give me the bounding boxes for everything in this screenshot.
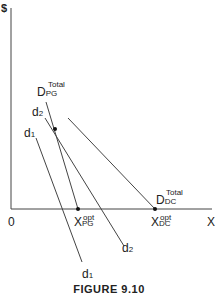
figure-caption: FIGURE 9.10 xyxy=(0,283,218,295)
d-dc-total-sup: Total xyxy=(166,188,183,197)
x-pg-opt-sup: opt xyxy=(83,213,94,222)
x-axis-label: X xyxy=(207,216,215,228)
d-dc-total-line xyxy=(68,118,155,209)
x-dc-opt-sup: opt xyxy=(160,213,171,222)
d1-label-top: d1 xyxy=(24,127,35,139)
y-axis-label: $ xyxy=(1,3,7,14)
d2-label-top: d2 xyxy=(32,106,43,118)
intersection-point xyxy=(53,127,57,131)
d-pg-total-sup: Total xyxy=(48,80,65,89)
d-pg-total-line xyxy=(46,102,78,209)
x-pg-opt-point xyxy=(76,207,80,211)
d1-label-bottom: d1 xyxy=(82,268,93,280)
origin-label: 0 xyxy=(8,216,15,228)
x-dc-opt-point xyxy=(153,207,157,211)
d2-label-bottom: d2 xyxy=(122,242,133,254)
